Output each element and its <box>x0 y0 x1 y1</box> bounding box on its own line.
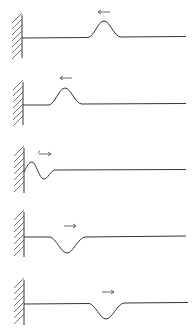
fixed-wall <box>14 146 24 193</box>
panel-2 <box>13 76 186 126</box>
fixed-wall <box>14 278 24 325</box>
arrow-right-icon <box>64 224 76 228</box>
fixed-wall <box>12 13 22 59</box>
fixed-wall <box>14 210 24 257</box>
arrow-left-icon <box>98 10 110 14</box>
string-with-crest-pulse <box>22 21 186 38</box>
fixed-wall <box>13 80 23 126</box>
panel-4 <box>14 210 186 257</box>
arrow-right-icon <box>102 290 114 294</box>
panel-3 <box>14 146 186 193</box>
string-with-crest-pulse <box>23 88 186 105</box>
wave-reflection-diagram <box>0 0 196 334</box>
string-with-trough-pulse <box>24 236 186 253</box>
string-with-trough-pulse <box>24 303 188 320</box>
string-reflecting-pulse <box>24 162 186 179</box>
arrow-left-icon <box>60 76 72 80</box>
hooked-arrow-icon <box>39 151 52 156</box>
panel-5 <box>14 278 188 325</box>
panel-1 <box>12 10 186 59</box>
